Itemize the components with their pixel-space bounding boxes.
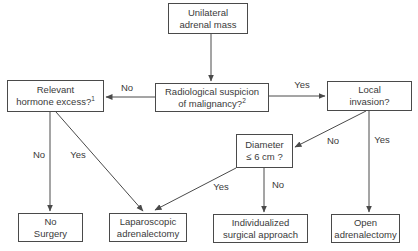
edge-label-hormone-to-laparoscopic: Yes [70, 150, 86, 160]
node-label-line: of malignancy?2 [178, 98, 246, 110]
node-diameter-6cm: Diameter ≤ 6 cm ? [236, 134, 293, 168]
edge-label-rad-to-local: Yes [294, 80, 310, 90]
node-label-line: Open [354, 217, 377, 229]
arrow-hormone-to-laparoscopic [56, 112, 143, 211]
node-label-line: Relevant [37, 84, 75, 96]
edge-label-hormone-to-no-surgery: No [33, 150, 45, 160]
node-label-line: No [44, 216, 56, 228]
node-individualized-surgical-approach: Individualized surgical approach [213, 214, 308, 243]
node-label-line: ≤ 6 cm ? [246, 151, 282, 163]
adrenal-mass-flowchart: Unilateral adrenal mass Radiological sus… [0, 0, 418, 251]
node-label-line: hormone excess?1 [16, 96, 95, 108]
edge-label-diameter-to-laparoscopic: Yes [213, 182, 229, 192]
node-relevant-hormone-excess: Relevant hormone excess?1 [7, 80, 104, 112]
node-label-line: invasion? [349, 96, 389, 108]
edge-label-local-to-diameter: No [327, 136, 339, 146]
node-label-line: adrenalectomy [117, 228, 179, 240]
node-label-line: Unilateral [188, 7, 228, 19]
node-radiological-suspicion: Radiological suspicion of malignancy?2 [155, 83, 269, 112]
node-label-line: surgical approach [223, 229, 298, 241]
node-no-surgery: No Surgery [18, 213, 83, 242]
node-label-line: Local [358, 84, 381, 96]
node-unilateral-adrenal-mass: Unilateral adrenal mass [168, 3, 248, 34]
node-label-line: adrenalectomy [334, 229, 396, 241]
node-label-line: Laparoscopic [120, 216, 177, 228]
node-label-line: Surgery [34, 228, 67, 240]
node-label-line: adrenal mass [179, 19, 236, 31]
node-open-adrenalectomy: Open adrenalectomy [331, 214, 400, 243]
footnote-marker: 1 [91, 95, 95, 102]
edge-label-rad-to-hormone: No [121, 83, 133, 93]
node-laparoscopic-adrenalectomy: Laparoscopic adrenalectomy [109, 213, 187, 242]
node-local-invasion: Local invasion? [327, 81, 412, 111]
edge-label-local-to-open: Yes [374, 135, 390, 145]
node-label-line: Individualized [232, 217, 290, 229]
edge-label-diameter-to-individualized: No [272, 180, 284, 190]
node-label-line: Diameter [245, 139, 284, 151]
footnote-marker: 2 [242, 96, 246, 103]
